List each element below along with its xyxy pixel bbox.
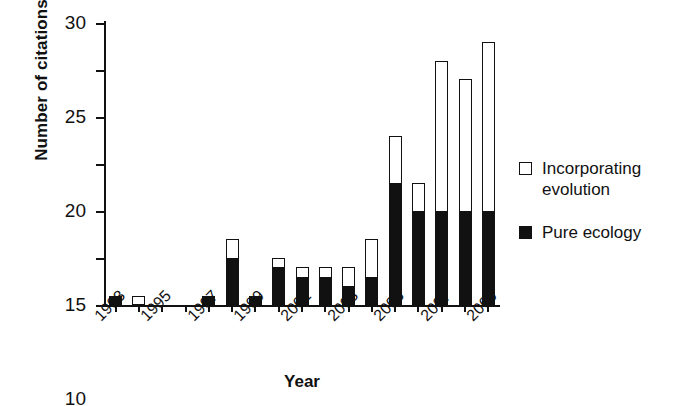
y-tick-25: 25	[96, 70, 104, 72]
bar-2002	[319, 267, 332, 305]
bar-segment-incorporating-evolution-2003	[342, 267, 355, 286]
bar-segment-incorporating-evolution-2000	[272, 258, 285, 267]
bar-segment-incorporating-evolution-2008	[459, 79, 472, 211]
bar-segment-pure-ecology-1998	[226, 258, 239, 305]
y-tick-label-30: 30	[65, 12, 86, 34]
bar-2009	[482, 42, 495, 305]
chart-legend: Incorporatingevolution Pure ecology	[519, 158, 691, 265]
legend-item-pure-ecology[interactable]: Pure ecology	[519, 222, 691, 243]
bar-segment-incorporating-evolution-2006	[412, 183, 425, 211]
bar-segment-pure-ecology-2002	[319, 277, 332, 305]
y-tick-15: 15	[96, 164, 104, 166]
y-tick-10: 10	[96, 211, 104, 213]
bar-segment-incorporating-evolution-2007	[435, 61, 448, 211]
y-tick-label-25: 25	[65, 106, 86, 128]
y-tick-20: 20	[96, 117, 104, 119]
bar-2005	[389, 136, 402, 305]
y-tick-label-15: 15	[65, 294, 86, 316]
bar-segment-incorporating-evolution-2005	[389, 136, 402, 183]
open-square-icon	[519, 162, 532, 175]
bar-2000	[272, 258, 285, 305]
bar-2007	[435, 61, 448, 305]
bar-segment-incorporating-evolution-2009	[482, 42, 495, 211]
bar-segment-incorporating-evolution-2002	[319, 267, 332, 276]
plot-area: 051015202530	[104, 23, 500, 305]
filled-square-icon	[519, 226, 532, 239]
bar-segment-incorporating-evolution-2001	[296, 267, 309, 276]
x-tick-label-group: 199319951997199920012003200520072009	[104, 308, 504, 378]
legend-label-incorporating-evolution: Incorporatingevolution	[542, 158, 641, 200]
legend-item-incorporating-evolution[interactable]: Incorporatingevolution	[519, 158, 691, 200]
legend-label-pure-ecology: Pure ecology	[542, 222, 641, 243]
bar-segment-incorporating-evolution-2004	[365, 239, 378, 277]
bar-segment-pure-ecology-2006	[412, 211, 425, 305]
y-axis-title: Number of citations	[32, 0, 52, 210]
bar-1998	[226, 239, 239, 305]
bar-2006	[412, 183, 425, 305]
bar-2008	[459, 79, 472, 305]
bar-segment-pure-ecology-2008	[459, 211, 472, 305]
x-axis-title: Year	[104, 372, 500, 392]
bar-2004	[365, 239, 378, 305]
y-tick-30: 30	[96, 23, 104, 25]
y-tick-5: 5	[96, 258, 104, 260]
citations-bar-chart: Number of citations 051015202530 1993199…	[0, 0, 696, 406]
bar-segment-pure-ecology-2000	[272, 267, 285, 305]
bar-segment-pure-ecology-2004	[365, 277, 378, 305]
y-tick-label-20: 20	[65, 200, 86, 222]
bar-segment-incorporating-evolution-1998	[226, 239, 239, 258]
y-tick-label-10: 10	[65, 388, 86, 406]
